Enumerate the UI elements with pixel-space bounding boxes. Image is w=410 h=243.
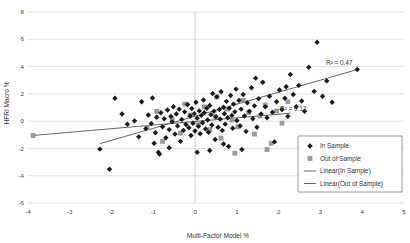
y-axis-title: HFRI Macro % [3, 81, 10, 124]
data-point-in-sample [188, 133, 193, 138]
data-point-in-sample [189, 106, 194, 111]
x-tick-label: -2 [109, 208, 115, 215]
data-point-in-sample [193, 100, 198, 105]
data-point-in-sample [215, 125, 220, 130]
y-tick-label: 6 [21, 35, 25, 42]
data-point-out-of-sample [274, 109, 279, 114]
data-point-in-sample [240, 92, 245, 97]
data-point-in-sample [107, 166, 112, 171]
data-point-in-sample [299, 98, 304, 103]
data-point-in-sample [285, 114, 290, 119]
data-point-in-sample [197, 108, 202, 113]
data-point-in-sample [252, 103, 257, 108]
x-axis-tick-labels: -4-3-2-1012345 [25, 208, 406, 215]
data-point-in-sample [165, 107, 170, 112]
data-point-in-sample [182, 109, 187, 114]
data-point-in-sample [209, 122, 214, 127]
data-point-in-sample [238, 106, 243, 111]
x-tick-label: 1 [235, 208, 239, 215]
data-point-in-sample [171, 104, 176, 109]
data-point-in-sample [150, 95, 155, 100]
data-point-in-sample [230, 126, 235, 131]
data-point-in-sample [174, 111, 179, 116]
data-point-in-sample [234, 118, 239, 123]
trendline [33, 113, 290, 135]
data-point-in-sample [161, 116, 166, 121]
data-point-in-sample [153, 130, 158, 135]
data-point-in-sample [212, 137, 217, 142]
data-point-in-sample [221, 141, 226, 146]
data-point-in-sample [172, 131, 177, 136]
y-tick-label: 2 [21, 90, 25, 97]
x-tick-label: 4 [360, 208, 364, 215]
y-tick-label: 0 [21, 117, 25, 124]
data-point-in-sample [178, 139, 183, 144]
data-point-out-of-sample [285, 99, 290, 104]
data-point-in-sample [192, 128, 197, 133]
data-point-in-sample [220, 128, 225, 133]
data-point-in-sample [253, 75, 258, 80]
data-point-in-sample [355, 67, 360, 72]
data-point-in-sample [291, 92, 296, 97]
data-point-in-sample [249, 85, 254, 90]
data-point-in-sample [222, 121, 227, 126]
x-tick-label: -4 [25, 208, 31, 215]
data-point-in-sample [167, 127, 172, 132]
x-tick-label: 3 [319, 208, 323, 215]
data-point-in-sample [277, 87, 282, 92]
data-point-out-of-sample [229, 118, 234, 123]
x-tick-label: 5 [402, 208, 406, 215]
data-point-in-sample [217, 107, 222, 112]
data-point-in-sample [320, 94, 325, 99]
data-point-in-sample [175, 123, 180, 128]
legend-marker-square [308, 156, 313, 161]
y-tick-label: -4 [18, 172, 24, 179]
data-point-in-sample [136, 134, 141, 139]
x-tick-label: 0 [193, 208, 197, 215]
data-point-out-of-sample [219, 136, 224, 141]
data-point-in-sample [139, 99, 144, 104]
data-point-in-sample [274, 99, 279, 104]
data-point-in-sample [239, 147, 244, 152]
data-point-in-sample [205, 117, 210, 122]
data-point-in-sample [119, 111, 124, 116]
legend-label: Out of Sample [320, 155, 361, 163]
series-out-of-sample-points [31, 94, 291, 155]
data-point-in-sample [201, 97, 206, 102]
x-axis-title: Multi-Factor Model % [187, 232, 249, 239]
data-point-in-sample [243, 129, 248, 134]
data-point-in-sample [329, 100, 334, 105]
data-point-in-sample [97, 146, 102, 151]
data-point-in-sample [311, 89, 316, 94]
x-tick-label: -3 [67, 208, 73, 215]
x-tick-label: 2 [277, 208, 281, 215]
data-point-in-sample [222, 111, 227, 116]
data-point-in-sample [112, 96, 117, 101]
annotation-label: R² = 0.47 [326, 59, 353, 66]
chart-canvas: -6-4-202468 -4-3-2-1012345 R² = 0.47R² =… [0, 0, 410, 243]
data-point-in-sample [314, 40, 319, 45]
data-point-out-of-sample [265, 147, 270, 152]
data-point-out-of-sample [252, 132, 257, 137]
legend-label: Linear(In Sample) [320, 167, 371, 175]
data-point-out-of-sample [31, 133, 36, 138]
data-point-out-of-sample [232, 151, 237, 156]
y-axis-tick-labels: -6-4-202468 [18, 8, 24, 206]
legend: In SampleOut of SampleLinear(In Sample)L… [298, 136, 402, 192]
data-point-in-sample [233, 86, 238, 91]
data-point-in-sample [283, 84, 288, 89]
y-tick-label: -6 [18, 199, 24, 206]
y-tick-label: 8 [21, 8, 25, 15]
data-point-in-sample [177, 106, 182, 111]
data-point-in-sample [256, 96, 261, 101]
data-point-out-of-sample [154, 109, 159, 114]
data-point-in-sample [288, 72, 293, 77]
data-point-in-sample [260, 80, 265, 85]
x-tick-label: -1 [151, 208, 157, 215]
legend-label: In Sample [320, 142, 349, 150]
data-point-in-sample [125, 121, 130, 126]
data-point-out-of-sample [160, 139, 165, 144]
data-point-in-sample [132, 118, 137, 123]
data-point-in-sample [151, 141, 156, 146]
data-point-in-sample [306, 65, 311, 70]
